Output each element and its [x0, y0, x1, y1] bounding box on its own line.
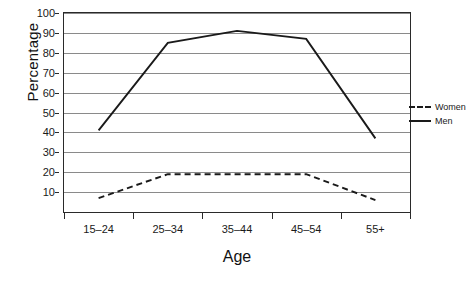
series-line-men [99, 31, 376, 138]
x-tick-mark [341, 213, 342, 219]
y-tick-mark [55, 13, 59, 14]
chart-figure: Percentage 102030405060708090100 15–2425… [0, 0, 471, 281]
x-tick-mark [133, 213, 134, 219]
y-tick-mark [55, 132, 59, 133]
x-tick-label: 45–54 [291, 222, 322, 236]
x-axis-title: Age [63, 248, 411, 266]
data-series-layer [64, 13, 410, 212]
x-tick-label: 25–34 [153, 222, 184, 236]
y-tick-mark [55, 152, 59, 153]
x-tick-label: 55+ [366, 222, 385, 236]
x-tick-mark [272, 213, 273, 219]
legend-item-men: Men [409, 115, 453, 127]
y-tick-label: 100 [37, 8, 55, 19]
chart-legend: Women Men [409, 101, 471, 131]
y-tick-label: 80 [43, 47, 55, 58]
x-tick-label: 35–44 [222, 222, 253, 236]
x-tick-label: 15–24 [83, 222, 114, 236]
y-tick-label: 50 [43, 107, 55, 118]
y-tick-mark [55, 172, 59, 173]
legend-label-men: Men [435, 116, 453, 126]
y-tick-mark [55, 93, 59, 94]
legend-swatch-solid-icon [409, 120, 431, 122]
y-tick-mark [55, 33, 59, 34]
plot-area [63, 12, 411, 213]
x-tick-mark [202, 213, 203, 219]
x-axis-ticks [63, 213, 411, 220]
legend-item-women: Women [409, 101, 466, 113]
x-tick-mark [64, 213, 65, 219]
y-tick-mark [55, 73, 59, 74]
series-line-women [99, 174, 376, 200]
y-tick-mark [55, 53, 59, 54]
y-tick-label: 60 [43, 87, 55, 98]
y-tick-label: 70 [43, 67, 55, 78]
y-axis-labels: 102030405060708090100 [26, 12, 59, 213]
y-tick-mark [55, 113, 59, 114]
y-tick-label: 30 [43, 147, 55, 158]
y-tick-label: 20 [43, 167, 55, 178]
y-tick-label: 10 [43, 187, 55, 198]
legend-swatch-dashed-icon [409, 106, 431, 108]
y-tick-label: 90 [43, 27, 55, 38]
y-tick-label: 40 [43, 127, 55, 138]
legend-label-women: Women [435, 102, 466, 112]
x-axis-labels: 15–2425–3435–4445–5455+ [63, 222, 411, 238]
x-tick-mark [410, 213, 411, 219]
y-tick-mark [55, 192, 59, 193]
